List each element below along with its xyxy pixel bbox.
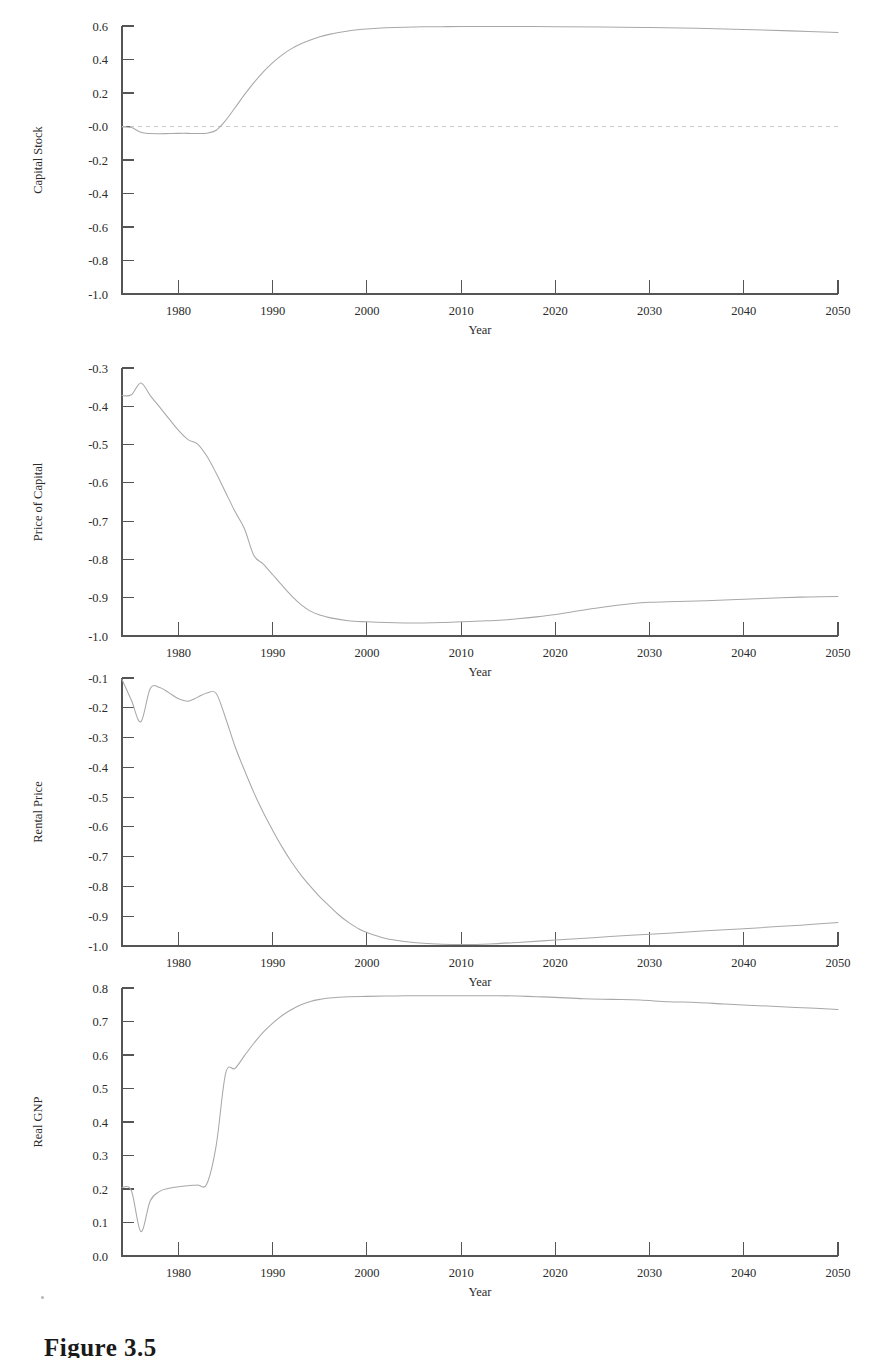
chart-panel-price-of-capital: -0.3-0.4-0.5-0.6-0.7-0.8-0.9-1.019801990… — [0, 342, 876, 680]
y-tick-label: -0.5 — [88, 438, 108, 452]
x-axis-ticks: 19801990200020102020203020402050 — [166, 1242, 850, 1280]
chart-panel-capital-stock: 0.60.40.2-0.0-0.2-0.4-0.6-0.8-1.01980199… — [0, 0, 876, 338]
axis-lines — [122, 678, 838, 946]
y-tick-label: 0.6 — [92, 20, 108, 34]
y-tick-label: -0.2 — [88, 154, 108, 168]
y-tick-label: -0.6 — [88, 476, 108, 490]
y-axis-ticks: 0.80.70.60.50.40.30.20.10.0 — [92, 982, 134, 1264]
y-tick-label: -0.2 — [88, 701, 108, 715]
x-tick-label: 2010 — [449, 304, 474, 318]
y-tick-label: 0.0 — [92, 1250, 108, 1264]
x-tick-label: 2000 — [354, 304, 379, 318]
y-tick-label: 0.7 — [92, 1015, 108, 1029]
x-tick-label: 2040 — [731, 1266, 756, 1280]
y-tick-label: 0.8 — [92, 982, 108, 996]
y-tick-label: 0.2 — [92, 87, 108, 101]
y-tick-label: 0.2 — [92, 1183, 108, 1197]
y-tick-label: -0.9 — [88, 591, 108, 605]
x-axis-title: Year — [468, 323, 492, 337]
y-axis-title: Rental Price — [31, 781, 45, 843]
x-axis-ticks: 19801990200020102020203020402050 — [166, 280, 850, 318]
y-axis-ticks: -0.3-0.4-0.5-0.6-0.7-0.8-0.9-1.0 — [88, 362, 134, 644]
data-line-capital-stock — [122, 26, 838, 133]
x-tick-label: 1990 — [260, 304, 285, 318]
y-tick-label: -0.3 — [88, 731, 108, 745]
x-tick-label: 2020 — [543, 1266, 568, 1280]
y-tick-label: -0.7 — [88, 515, 108, 529]
y-tick-label: -0.4 — [88, 400, 109, 414]
y-tick-label: -0.1 — [88, 672, 108, 686]
axis-lines — [122, 26, 838, 294]
y-tick-label: 0.5 — [92, 1082, 108, 1096]
x-tick-label: 1980 — [166, 304, 191, 318]
x-tick-label: 1980 — [166, 1266, 191, 1280]
y-tick-label: 0.4 — [92, 1116, 108, 1130]
y-tick-label: -0.8 — [88, 254, 108, 268]
x-tick-label: 2050 — [826, 1266, 851, 1280]
figure-caption: Figure 3.5 — [44, 1334, 157, 1358]
y-tick-label: -0.9 — [88, 910, 108, 924]
x-tick-label: 2000 — [354, 1266, 379, 1280]
chart-svg-rental-price: -0.1-0.2-0.3-0.4-0.5-0.6-0.7-0.8-0.9-1.0… — [0, 652, 876, 990]
y-tick-label: -0.4 — [88, 761, 109, 775]
y-tick-label: -1.0 — [88, 288, 108, 302]
y-tick-label: 0.4 — [92, 53, 108, 67]
page-speck — [41, 1296, 44, 1299]
axis-lines — [122, 368, 838, 636]
chart-panel-real-gnp: 0.80.70.60.50.40.30.20.10.01980199020002… — [0, 962, 876, 1300]
data-line-rental-price — [122, 679, 838, 944]
y-tick-label: 0.3 — [92, 1149, 108, 1163]
x-axis-title: Year — [468, 1285, 492, 1299]
x-tick-label: 2050 — [826, 304, 851, 318]
y-tick-label: -0.5 — [88, 791, 108, 805]
y-tick-label: 0.6 — [92, 1049, 108, 1063]
y-tick-label: -0.8 — [88, 880, 108, 894]
y-tick-label: -0.4 — [88, 187, 109, 201]
x-tick-label: 2030 — [637, 1266, 662, 1280]
chart-panel-rental-price: -0.1-0.2-0.3-0.4-0.5-0.6-0.7-0.8-0.9-1.0… — [0, 652, 876, 990]
y-tick-label: -0.7 — [88, 850, 108, 864]
y-axis-title: Real GNP — [31, 1096, 45, 1147]
y-axis-title: Price of Capital — [31, 462, 45, 541]
y-axis-title: Capital Stock — [31, 125, 45, 193]
y-tick-label: -1.0 — [88, 940, 108, 954]
x-tick-label: 2030 — [637, 304, 662, 318]
chart-svg-capital-stock: 0.60.40.2-0.0-0.2-0.4-0.6-0.8-1.01980199… — [0, 0, 876, 338]
y-axis-ticks: -0.1-0.2-0.3-0.4-0.5-0.6-0.7-0.8-0.9-1.0 — [88, 672, 134, 954]
y-tick-label: 0.1 — [92, 1216, 108, 1230]
x-tick-label: 2010 — [449, 1266, 474, 1280]
data-line-price-of-capital — [122, 383, 838, 623]
x-tick-label: 2040 — [731, 304, 756, 318]
y-tick-label: -0.0 — [88, 120, 108, 134]
chart-svg-real-gnp: 0.80.70.60.50.40.30.20.10.01980199020002… — [0, 962, 876, 1300]
y-tick-label: -0.6 — [88, 221, 108, 235]
chart-svg-price-of-capital: -0.3-0.4-0.5-0.6-0.7-0.8-0.9-1.019801990… — [0, 342, 876, 680]
y-axis-ticks: 0.60.40.2-0.0-0.2-0.4-0.6-0.8-1.0 — [88, 20, 134, 302]
y-tick-label: -0.6 — [88, 820, 108, 834]
x-tick-label: 1990 — [260, 1266, 285, 1280]
y-tick-label: -0.8 — [88, 553, 108, 567]
y-tick-label: -0.3 — [88, 362, 108, 376]
axis-lines — [122, 988, 838, 1256]
y-tick-label: -1.0 — [88, 630, 108, 644]
data-line-real-gnp — [122, 996, 838, 1232]
x-tick-label: 2020 — [543, 304, 568, 318]
